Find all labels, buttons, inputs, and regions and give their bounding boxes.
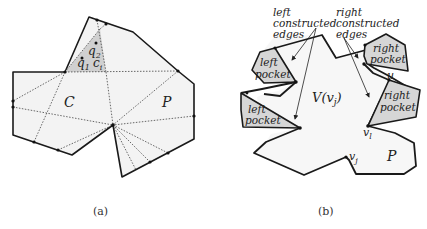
label-P-a: P — [161, 94, 172, 110]
right-pocket-bottom-label-2: pocket — [380, 101, 417, 113]
right-constructed-edges-label: right constructed edges — [336, 6, 400, 40]
caption-a: (a) — [93, 205, 108, 218]
label-C: C — [64, 94, 75, 110]
left-pocket-top-label-2: pocket — [255, 68, 292, 80]
left-pocket-top-label-1: left — [260, 56, 278, 68]
figure-canvas: q2 q1 ci C P (a) — [0, 0, 427, 229]
panel-a: q2 q1 ci C P (a) — [11, 17, 195, 218]
left-constructed-edges-label: left constructed edges — [273, 6, 337, 40]
right-pocket-top-label-2: pocket — [370, 53, 407, 65]
label-P-b: P — [386, 148, 397, 164]
svg-text:edges: edges — [336, 28, 368, 40]
right-pocket-bottom-label-1: right — [384, 89, 411, 101]
label-u: u — [387, 69, 394, 82]
svg-text:edges: edges — [273, 28, 305, 40]
caption-b: (b) — [318, 205, 334, 218]
panel-b: left constructed edges right constructed… — [241, 6, 420, 218]
left-pocket-bottom-label-2: pocket — [245, 114, 282, 126]
label-V-vj: V(vj) — [312, 90, 342, 107]
